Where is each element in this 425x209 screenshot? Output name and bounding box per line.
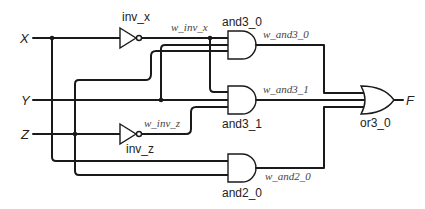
input-z-label: Z <box>20 127 30 142</box>
and2-0-label: and2_0 <box>222 186 262 200</box>
input-y-label: Y <box>21 93 31 108</box>
wire-z <box>33 51 228 175</box>
and2-0-gate <box>228 154 256 182</box>
net-w-inv-x-label: w_inv_x <box>171 21 208 33</box>
net-w-inv-z-label: w_inv_z <box>144 117 181 129</box>
inv-z-gate <box>120 124 142 144</box>
net-w-and3-1-label: w_and3_1 <box>263 83 309 95</box>
and3-1-gate <box>228 86 256 114</box>
inv-z-label: inv_z <box>126 142 154 156</box>
wire-y <box>33 45 228 102</box>
and3-0-gate <box>228 31 256 59</box>
net-w-and2-0-label: w_and2_0 <box>265 170 311 182</box>
and3-0-label: and3_0 <box>222 15 262 29</box>
inv-x-label: inv_x <box>122 10 150 24</box>
or3-0-label: or3_0 <box>360 116 391 130</box>
inv-x-gate <box>120 28 142 48</box>
circuit-diagram: X Y Z inv_x w_inv_x inv_z <box>0 0 425 209</box>
input-x-label: X <box>19 31 30 46</box>
wire-w-and2-0 <box>256 107 365 168</box>
net-w-and3-0-label: w_and3_0 <box>263 28 309 40</box>
output-f-label: F <box>406 93 415 108</box>
or3-0-gate <box>361 86 394 114</box>
and3-1-label: and3_1 <box>222 117 262 131</box>
